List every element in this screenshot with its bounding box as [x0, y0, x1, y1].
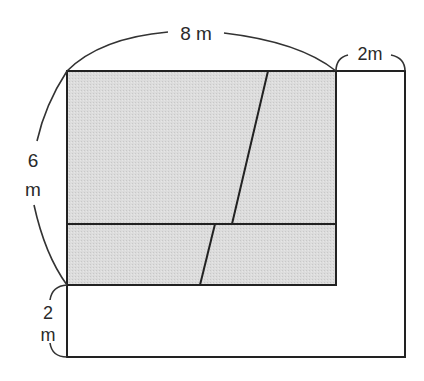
dimension-arc-right-right — [391, 55, 405, 71]
dimension-arc-left-bottom — [34, 205, 67, 285]
label-left-height-unit: m — [25, 179, 41, 200]
dimension-arc-bottom-left-bottom — [50, 343, 67, 357]
label-right-extension: 2m — [357, 44, 382, 64]
dimension-arc-top-right — [224, 33, 336, 71]
dimension-arc-left-top — [37, 71, 67, 141]
shaded-region — [67, 71, 336, 285]
dimension-arc-top-left — [67, 32, 168, 71]
dimension-arc-bottom-left-top — [50, 285, 67, 300]
label-top-width: 8 m — [180, 23, 212, 44]
label-left-height-number: 6 — [28, 150, 39, 171]
area-diagram: 8 m 2m 6 m 2 m — [0, 0, 424, 381]
label-bottom-extension-number: 2 — [43, 303, 53, 323]
dimension-arc-right-left — [336, 55, 348, 71]
label-bottom-extension-unit: m — [41, 325, 56, 345]
